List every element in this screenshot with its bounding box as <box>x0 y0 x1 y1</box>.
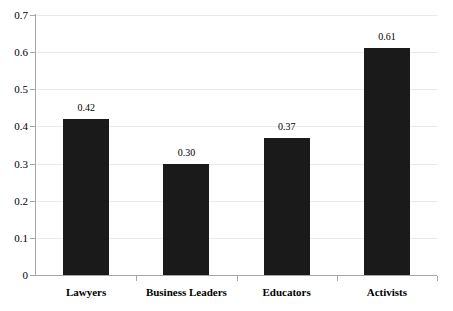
y-axis-line <box>35 14 36 276</box>
y-axis-tick-label: 0.1 <box>0 233 28 244</box>
y-axis-tick-label: 0.5 <box>0 84 28 95</box>
x-axis-tick <box>437 276 438 281</box>
bar-chart: 0.70.60.50.40.30.20.10 0.420.300.370.61 … <box>0 0 453 311</box>
x-axis-tick <box>136 276 137 281</box>
bar-value-label: 0.37 <box>257 122 317 132</box>
bar <box>63 119 109 275</box>
y-axis-tick-label: 0.6 <box>0 47 28 58</box>
bar-value-label: 0.61 <box>357 32 417 42</box>
x-axis-tick <box>337 276 338 281</box>
y-axis-tick <box>30 52 36 53</box>
bar <box>364 48 410 275</box>
bar-value-label: 0.30 <box>156 148 216 158</box>
y-axis-tick <box>30 275 36 276</box>
y-axis-tick <box>30 126 36 127</box>
bar <box>264 138 310 275</box>
y-axis-tick-label: 0.4 <box>0 121 28 132</box>
gridline <box>36 15 437 16</box>
y-axis-tick-label: 0.7 <box>0 10 28 21</box>
y-axis-tick <box>30 15 36 16</box>
y-axis-tick-label: 0.2 <box>0 196 28 207</box>
y-axis-tick <box>30 201 36 202</box>
y-axis-tick <box>30 164 36 165</box>
bar-value-label: 0.42 <box>56 103 116 113</box>
y-axis-tick <box>30 238 36 239</box>
bar <box>163 164 209 275</box>
x-axis-tick <box>237 276 238 281</box>
y-axis-tick-label: 0 <box>0 270 28 281</box>
y-axis-tick-label: 0.3 <box>0 159 28 170</box>
plot-area <box>36 15 437 275</box>
y-axis-tick <box>30 89 36 90</box>
x-axis-category-label: Activists <box>327 286 447 298</box>
